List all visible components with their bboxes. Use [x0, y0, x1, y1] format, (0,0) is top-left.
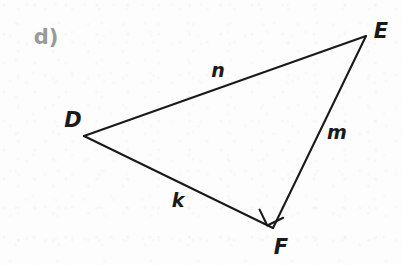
figure-canvas: d) D E F n m k	[0, 0, 402, 265]
vertex-label-E: E	[374, 21, 388, 42]
side-label-k: k	[172, 191, 185, 210]
side-label-n: n	[211, 61, 225, 80]
vertex-label-D: D	[64, 110, 81, 131]
side-DF-line	[84, 136, 273, 228]
vertex-label-F: F	[274, 237, 288, 258]
side-label-m: m	[327, 123, 347, 142]
part-label: d)	[34, 27, 59, 48]
